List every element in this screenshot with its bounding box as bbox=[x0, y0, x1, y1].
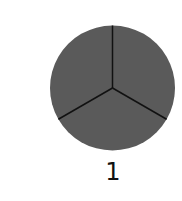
fraction-circle bbox=[0, 0, 182, 201]
fraction-label: 1 bbox=[100, 160, 126, 184]
